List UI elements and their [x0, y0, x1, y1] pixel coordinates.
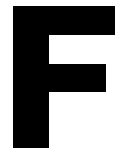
f-top-arm [13, 6, 115, 35]
f-middle-arm [13, 64, 106, 92]
letter-f-glyph: F [0, 0, 127, 161]
glyph-letter: F [0, 0, 1, 1]
